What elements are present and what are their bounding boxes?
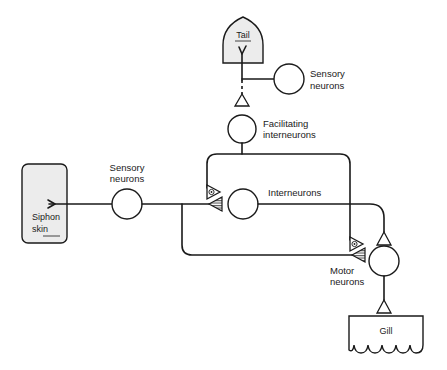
gill-organ: Gill bbox=[349, 316, 423, 353]
presynaptic-facilitation-synapse-interneuron bbox=[207, 185, 220, 199]
motor-label-2: neurons bbox=[330, 276, 365, 287]
presynaptic-facilitation-synapse-motor bbox=[350, 237, 363, 251]
siphon-label-2: skin bbox=[32, 224, 48, 234]
tail-organ: Tail bbox=[223, 17, 263, 63]
tail-label: Tail bbox=[236, 30, 250, 40]
facilitating-interneuron bbox=[228, 115, 256, 143]
tail-sensory-label-2: neurons bbox=[310, 80, 345, 91]
motor-gill-synapse-icon bbox=[377, 300, 391, 313]
sensory-motor-synapse-icon bbox=[352, 248, 365, 262]
gill-withdrawal-reflex-circuit-diagram: Tail Sensory neurons Facilitating intern… bbox=[0, 0, 447, 370]
tail-sensory-label-1: Sensory bbox=[310, 68, 345, 79]
motor-label-1: Motor bbox=[330, 265, 354, 276]
siphon-sensory-label-1: Sensory bbox=[110, 162, 145, 173]
siphon-label-1: Siphon bbox=[32, 212, 60, 222]
sensory-to-motor-axon bbox=[182, 204, 354, 255]
interneuron-motor-synapse-icon bbox=[377, 232, 391, 245]
facilitating-label-2: interneurons bbox=[263, 129, 316, 140]
motor-neuron bbox=[369, 246, 399, 276]
tail-to-facilitating-synapse-icon bbox=[235, 94, 249, 106]
siphon-sensory-neuron bbox=[112, 189, 142, 219]
interneuron-label: Interneurons bbox=[268, 187, 322, 198]
siphon-sensory-label-2: neurons bbox=[110, 173, 145, 184]
interneuron-to-motor-axon bbox=[258, 204, 384, 232]
sensory-interneuron-synapse-icon bbox=[209, 197, 222, 211]
gill-label: Gill bbox=[380, 326, 393, 336]
tail-sensory-neuron bbox=[274, 64, 304, 94]
interneuron bbox=[228, 189, 258, 219]
facilitating-label-1: Facilitating bbox=[263, 118, 308, 129]
